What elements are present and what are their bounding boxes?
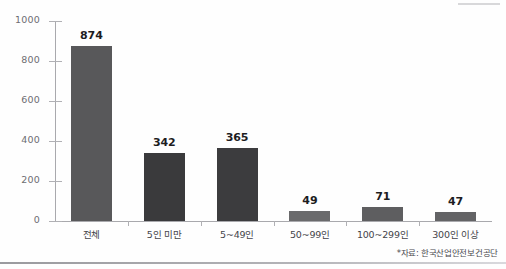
- category-label: 100~299인: [357, 227, 409, 241]
- y-axis-tick: 800: [49, 61, 62, 62]
- y-axis-tick-label: 600: [21, 94, 40, 105]
- bar-value-label: 365: [226, 131, 249, 144]
- y-axis-tick: 400: [49, 141, 62, 142]
- category-label: 5인 미만: [147, 227, 182, 241]
- y-axis-tick-label: 200: [21, 174, 40, 185]
- chart-screenshot: 02004006008001000 874342365497147 전체5인 미…: [0, 0, 506, 269]
- bottom-rule-divider: [0, 262, 506, 264]
- y-axis-tick-label: 0: [34, 214, 40, 225]
- x-axis-tick: [346, 221, 347, 226]
- x-axis-tick: [274, 221, 275, 226]
- y-axis-tick: 0: [49, 221, 62, 222]
- x-axis-tick: [419, 221, 420, 226]
- bar: 342: [144, 153, 185, 221]
- category-label: 300인 이상: [432, 227, 479, 241]
- category-label: 전체: [83, 227, 101, 241]
- category-label: 50~99인: [290, 227, 330, 241]
- y-axis-tick: 200: [49, 181, 62, 182]
- y-axis-line: [55, 21, 56, 222]
- category-label: 5~49인: [220, 227, 254, 241]
- y-axis-tick-label: 800: [21, 54, 40, 65]
- bar-value-label: 47: [448, 195, 463, 208]
- bar: 365: [217, 148, 258, 221]
- bar-value-label: 71: [375, 190, 390, 203]
- bar-value-label: 49: [302, 194, 317, 207]
- source-note: *자료: 한국산업안전보건공단: [397, 246, 498, 258]
- bar: 47: [435, 212, 476, 221]
- bar: 874: [71, 46, 112, 221]
- y-axis-tick-label: 1000: [15, 14, 40, 25]
- bar-value-label: 342: [153, 136, 176, 149]
- y-axis-tick-label: 400: [21, 134, 40, 145]
- plot-area: 02004006008001000 874342365497147: [55, 21, 492, 222]
- x-axis-tick: [128, 221, 129, 226]
- top-rule-divider: [458, 3, 500, 5]
- x-axis-tick: [201, 221, 202, 226]
- y-axis-tick: 1000: [49, 21, 62, 22]
- bar-value-label: 874: [80, 29, 103, 42]
- bar: 71: [362, 207, 403, 221]
- bar: 49: [289, 211, 330, 221]
- y-axis-tick: 600: [49, 101, 62, 102]
